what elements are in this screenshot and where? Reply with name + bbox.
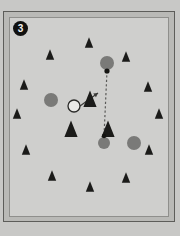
triangle-1 (85, 37, 93, 48)
scene-graphics (10, 18, 169, 217)
gaze-arrow-head (93, 93, 98, 97)
triangle-6 (13, 108, 21, 119)
search-array-scene (9, 17, 169, 217)
triangle-large-center (83, 91, 96, 108)
triangle-3 (122, 51, 130, 62)
triangle-8 (22, 144, 30, 155)
gray-circle-top (100, 56, 114, 70)
saccade-start-dot (104, 68, 109, 73)
triangle-2 (46, 49, 54, 60)
triangle-5 (144, 81, 152, 92)
triangle-9 (145, 144, 153, 155)
gray-circle-lower (98, 137, 110, 149)
triangle-4 (20, 79, 28, 90)
triangle-12 (122, 172, 130, 183)
small-triangles-group (13, 37, 163, 192)
triangle-7 (155, 108, 163, 119)
triangle-10 (48, 170, 56, 181)
target-open-circle[interactable] (68, 100, 80, 112)
target-circle-group[interactable] (68, 100, 80, 112)
figure-panel: 3 (0, 0, 180, 236)
triangle-large-left (64, 121, 77, 138)
gray-circle-left (44, 93, 58, 107)
large-triangles-group (64, 91, 114, 138)
saccade-end-dot (102, 134, 106, 138)
triangle-11 (86, 181, 94, 192)
gray-circle-right (127, 136, 141, 150)
panel-number-badge: 3 (13, 21, 28, 36)
